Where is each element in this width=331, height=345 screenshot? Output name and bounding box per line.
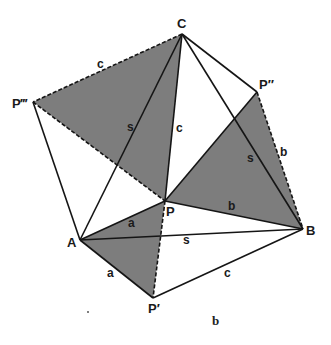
side-label-c-p3: c [97,57,104,71]
side-label-c-a: s [127,120,134,134]
side-label-p1-b: c [224,266,231,280]
stray-dot [87,311,89,313]
side-label-p2-b: b [280,145,287,159]
side-label-p-b: b [228,199,235,213]
vertex-label-b: B [306,223,315,238]
segment-c-p2 [182,34,257,92]
vertex-label-a: A [67,235,77,250]
side-label-c-p: c [176,121,183,135]
vertex-label-p2: P″ [259,77,274,92]
figure-caption: b [212,313,219,328]
shaded-triangle-p3-c-p [33,34,182,201]
side-label-a-p: a [128,216,135,230]
side-label-a-b: s [183,233,190,247]
side-label-c-b: s [247,151,254,165]
side-label-a-p1: a [107,266,114,280]
vertex-label-p: P [166,204,175,219]
vertex-label-c: C [177,16,187,31]
segment-p1-b [153,229,303,298]
vertex-label-p3: P‴ [12,96,28,111]
geometry-diagram: C P″ P‴ A P B P′ c s c s b b s a a c b [0,0,331,345]
vertex-label-p1: P′ [148,301,160,316]
